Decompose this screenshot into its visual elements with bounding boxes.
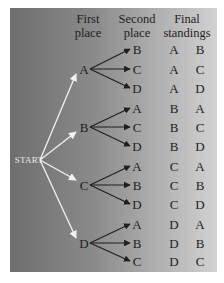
standing-first: A [169, 43, 178, 56]
standing-first: B [170, 102, 179, 115]
second-place-node: B [133, 43, 142, 56]
first-place-node: D [79, 237, 88, 250]
first-place-node: B [80, 121, 89, 134]
standing-second: B [196, 43, 205, 56]
branch-arrow [90, 49, 130, 69]
branch-arrow [90, 243, 130, 261]
header-final-line1: Final [163, 12, 210, 26]
second-place-node: D [132, 140, 141, 153]
header-second-line1: Second [119, 12, 156, 26]
first-place-node: C [80, 179, 89, 192]
header-final-standings: Final standings [163, 12, 210, 40]
standing-second: D [195, 82, 204, 95]
start-label: START [15, 154, 44, 167]
standing-second: B [196, 237, 205, 250]
standing-second: A [195, 160, 204, 173]
header-first-line1: First [75, 12, 101, 26]
second-place-node: B [133, 179, 142, 192]
start-arrow [40, 160, 76, 180]
standing-first: A [169, 82, 178, 95]
standing-second: C [196, 121, 205, 134]
standing-second: D [195, 198, 204, 211]
branch-arrow [90, 69, 130, 88]
second-place-node: A [132, 160, 141, 173]
start-arrow [40, 74, 76, 160]
header-final-line2: standings [163, 26, 210, 40]
branch-arrow [90, 185, 130, 204]
header-first-line2: place [75, 26, 101, 40]
standing-first: C [170, 179, 179, 192]
second-place-node: C [133, 255, 142, 268]
second-place-node: C [133, 121, 142, 134]
standing-first: C [170, 160, 179, 173]
standing-second: D [195, 140, 204, 153]
second-place-node: A [132, 102, 141, 115]
second-place-node: B [133, 237, 142, 250]
second-place-node: A [132, 218, 141, 231]
standing-second: A [195, 218, 204, 231]
standing-second: A [195, 102, 204, 115]
first-place-node: A [79, 63, 88, 76]
standing-first: D [169, 255, 178, 268]
standing-second: C [196, 255, 205, 268]
tree-arrows [0, 0, 224, 283]
start-arrow [40, 160, 76, 238]
second-place-node: C [133, 63, 142, 76]
branch-arrow [90, 166, 130, 185]
header-first-place: First place [75, 12, 101, 40]
standing-first: D [169, 218, 178, 231]
standing-first: B [170, 140, 179, 153]
standing-first: C [170, 198, 179, 211]
second-place-node: D [132, 198, 141, 211]
header-second-place: Second place [119, 12, 156, 40]
second-place-node: D [132, 82, 141, 95]
branch-arrow [90, 108, 130, 127]
branch-arrow [90, 224, 130, 243]
standing-first: D [169, 237, 178, 250]
standing-first: B [170, 121, 179, 134]
standing-second: B [196, 179, 205, 192]
branch-arrow [90, 127, 130, 146]
standing-first: A [169, 63, 178, 76]
standing-second: C [196, 63, 205, 76]
header-second-line2: place [119, 26, 156, 40]
